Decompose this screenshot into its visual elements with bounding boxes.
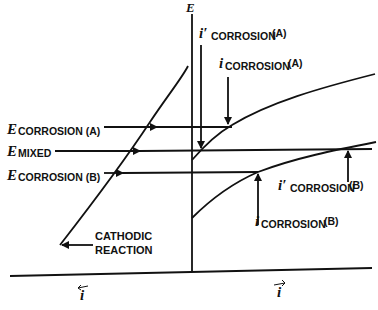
svg-text:(A): (A) (272, 27, 287, 39)
svg-text:CORROSION (B): CORROSION (B) (18, 171, 100, 183)
svg-text:E: E (6, 167, 17, 183)
i-prime-corrosion-a-label: i′ CORROSION (A) (199, 25, 287, 42)
e-corrosion-a-label: E CORROSION (A) (6, 121, 100, 137)
e-corrosion-b-label: E CORROSION (B) (6, 167, 100, 183)
svg-text:i: i (219, 55, 224, 71)
i-corrosion-b-label: i CORROSION (B) (255, 213, 339, 230)
svg-text:CORROSION (A): CORROSION (A) (18, 125, 100, 137)
e-mixed-label: E MIXED (6, 143, 52, 159)
svg-text:E: E (6, 143, 17, 159)
left-current-label: i (78, 285, 88, 303)
svg-text:(B): (B) (349, 179, 364, 191)
i-prime-corrosion-b-label: i′ CORROSION (B) (278, 177, 364, 194)
svg-text:i′: i′ (199, 25, 207, 41)
svg-text:CORROSION: CORROSION (225, 60, 290, 72)
svg-text:CATHODIC: CATHODIC (95, 230, 152, 242)
svg-text:(A): (A) (288, 57, 303, 69)
svg-text:E: E (6, 121, 17, 137)
svg-text:i: i (255, 213, 260, 229)
svg-text:i′: i′ (278, 177, 286, 193)
right-current-label: i (274, 280, 285, 300)
svg-text:MIXED: MIXED (18, 147, 52, 159)
svg-text:i: i (277, 284, 282, 300)
cathodic-curve (60, 66, 188, 245)
svg-text:(B): (B) (324, 215, 339, 227)
svg-text:CORROSION: CORROSION (290, 182, 355, 194)
svg-text:CORROSION: CORROSION (211, 30, 276, 42)
evans-diagram: E i i E CORROSION (A) E MIXED E CORROSIO… (0, 0, 378, 310)
svg-text:REACTION: REACTION (95, 244, 153, 256)
e-corrosion-b-line (123, 172, 258, 173)
cathodic-reaction-label: CATHODIC REACTION (95, 230, 153, 256)
current-axis (10, 268, 372, 276)
i-corrosion-a-label: i CORROSION (A) (219, 55, 303, 72)
svg-text:CORROSION: CORROSION (261, 218, 326, 230)
e-axis-label: E (185, 0, 195, 15)
